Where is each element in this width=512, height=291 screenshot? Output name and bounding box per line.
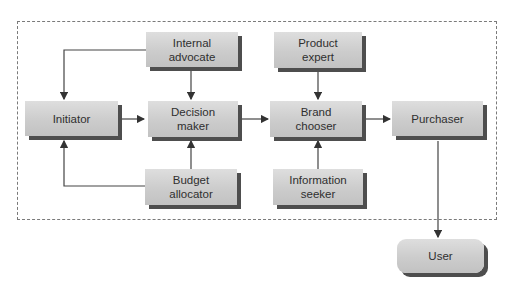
node-brand-chooser: Brand chooser bbox=[270, 101, 362, 137]
node-information-seeker: Information seeker bbox=[273, 169, 363, 205]
edge-advocate-initiator bbox=[64, 50, 146, 99]
edge-budget-initiator bbox=[64, 141, 145, 186]
node-initiator: Initiator bbox=[25, 101, 118, 136]
node-user: User bbox=[397, 239, 484, 273]
node-budget-allocator: Budget allocator bbox=[145, 169, 237, 205]
node-internal-advocate: Internal advocate bbox=[146, 32, 238, 67]
node-decision-maker: Decision maker bbox=[148, 101, 238, 137]
node-product-expert: Product expert bbox=[274, 32, 362, 68]
node-purchaser: Purchaser bbox=[392, 101, 483, 136]
